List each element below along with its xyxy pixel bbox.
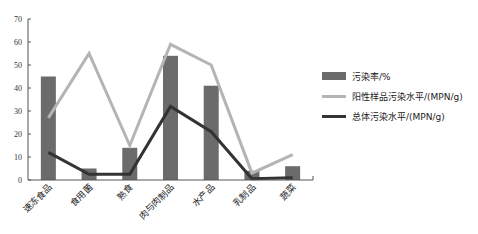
y-tick-label: 0 [18, 176, 22, 185]
x-category-label: 速冻食品 [21, 182, 54, 215]
dark-line-swatch-icon [322, 115, 346, 118]
light-line-swatch-icon [322, 95, 346, 98]
legend-label: 阳性样品污染水平/(MPN/g) [352, 90, 463, 103]
x-category-label: 水产品 [190, 182, 217, 209]
x-axis: 速冻食品食用菌熟食肉与肉制品水产品乳制品蔬菜 [21, 176, 313, 221]
x-category-label: 食用菌 [68, 182, 95, 209]
legend-item-overall-level: 总体污染水平/(MPN/g) [322, 106, 463, 126]
y-tick-label: 50 [14, 61, 22, 70]
y-tick-label: 10 [14, 153, 22, 162]
x-category-label: 乳制品 [230, 182, 257, 209]
bar-series [41, 56, 300, 180]
bar [41, 77, 56, 181]
y-axis: 010203040506070 [14, 15, 31, 185]
y-tick-label: 60 [14, 38, 22, 47]
y-tick-label: 70 [14, 15, 22, 24]
x-category-label: 蔬菜 [278, 182, 299, 203]
legend: 污染率/% 阳性样品污染水平/(MPN/g) 总体污染水平/(MPN/g) [322, 66, 463, 126]
legend-label: 总体污染水平/(MPN/g) [352, 110, 445, 123]
legend-label: 污染率/% [352, 70, 391, 83]
legend-item-positive-level: 阳性样品污染水平/(MPN/g) [322, 86, 463, 106]
y-tick-label: 40 [14, 84, 22, 93]
x-category-label: 熟食 [115, 182, 136, 203]
bar-swatch-icon [322, 72, 346, 80]
y-tick-label: 20 [14, 130, 22, 139]
legend-item-contamination-rate: 污染率/% [322, 66, 463, 86]
y-tick-label: 30 [14, 107, 22, 116]
x-category-label: 肉与肉制品 [136, 182, 176, 222]
